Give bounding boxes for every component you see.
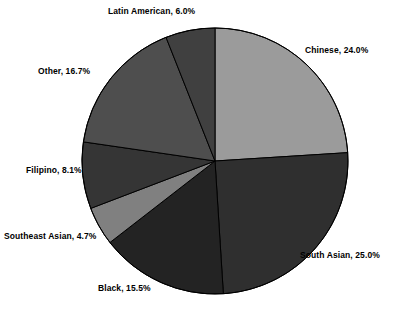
pie-chart-figure: Chinese, 24.0% South Asian, 25.0% Black,… (0, 0, 404, 309)
pie-slice-south-asian (215, 153, 348, 294)
slice-label-latin-american: Latin American, 6.0% (108, 6, 195, 16)
slice-label-south-asian: South Asian, 25.0% (300, 250, 380, 260)
slice-label-filipino: Filipino, 8.1% (26, 165, 82, 175)
slice-label-black: Black, 15.5% (98, 283, 151, 293)
slice-label-southeast-asian: Southeast Asian, 4.7% (4, 231, 96, 241)
slice-label-chinese: Chinese, 24.0% (305, 45, 368, 55)
slice-label-other: Other, 16.7% (38, 66, 90, 76)
